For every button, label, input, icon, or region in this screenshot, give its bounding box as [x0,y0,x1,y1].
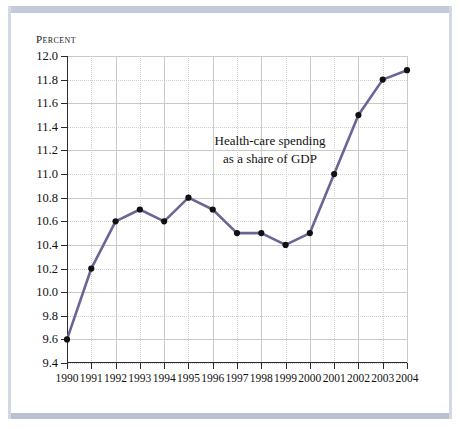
figure-frame-bottom [8,413,452,419]
data-point-marker [185,195,191,201]
y-axis-tick-label: 11.2 [37,143,58,158]
plot-area: 12.011.811.611.411.211.010.810.610.410.2… [67,56,407,363]
gridline-vertical [407,56,408,363]
x-axis-tick [334,363,335,369]
x-axis-tick [407,363,408,369]
y-axis-tick-label: 9.4 [42,356,58,371]
x-axis-tick-label: 1993 [128,372,151,384]
data-point-marker [112,218,118,224]
x-axis-tick-label: 2004 [396,372,419,384]
y-axis-tick-label: 11.0 [37,167,58,182]
data-point-marker [64,336,70,342]
y-axis-tick-label: 11.6 [37,96,58,111]
data-point-marker [307,230,313,236]
data-point-marker [88,265,94,271]
x-axis-tick-label: 1999 [274,372,297,384]
x-axis-tick [67,363,68,369]
y-axis-tick-label: 9.6 [42,332,58,347]
x-axis-tick [213,363,214,369]
y-axis-tick-label: 10.6 [36,214,58,229]
data-point-marker [404,67,410,73]
x-axis-tick [358,363,359,369]
x-axis-tick-label: 1995 [177,372,200,384]
x-axis-tick-label: 2000 [298,372,321,384]
x-axis-tick [188,363,189,369]
x-axis-tick-label: 2003 [371,372,394,384]
x-axis-tick [164,363,165,369]
y-axis-tick-label: 11.8 [37,72,58,87]
x-axis-tick-label: 2001 [323,372,346,384]
x-axis-tick [261,363,262,369]
figure-frame-right [449,6,452,419]
x-axis-tick-label: 1992 [104,372,127,384]
data-point-marker [355,112,361,118]
x-axis-tick-label: 1997 [226,372,249,384]
x-axis-tick-label: 1990 [56,372,79,384]
y-axis-tick-label: 10.0 [36,285,58,300]
figure-frame-left [8,6,11,419]
x-axis-tick [310,363,311,369]
chart-annotation: Health-care spending as a share of GDP [185,132,355,167]
x-axis-tick [383,363,384,369]
data-point-marker [258,230,264,236]
data-point-marker [282,242,288,248]
data-point-marker [331,171,337,177]
y-axis-tick-label: 11.4 [37,119,58,134]
annotation-line-2: as a share of GDP [185,150,355,168]
x-axis-tick [140,363,141,369]
figure-frame-top [8,6,452,13]
x-axis-tick-label: 1996 [201,372,224,384]
data-point-marker [380,77,386,83]
data-point-marker [161,218,167,224]
data-point-marker [210,206,216,212]
y-axis-tick-label: 10.2 [36,261,58,276]
data-point-marker [137,206,143,212]
y-axis-tick-label: 12.0 [36,49,58,64]
x-axis-tick-label: 1991 [80,372,103,384]
data-series-line [67,56,407,363]
x-axis-tick-label: 2002 [347,372,370,384]
x-axis-tick [237,363,238,369]
x-axis-tick-label: 1998 [250,372,273,384]
y-axis-tick-label: 10.4 [36,237,58,252]
x-axis-tick [286,363,287,369]
y-axis-title: Percent [36,33,76,45]
x-axis-tick [91,363,92,369]
annotation-line-1: Health-care spending [185,132,355,150]
y-axis-tick-label: 9.8 [42,308,58,323]
x-axis-tick [116,363,117,369]
chart-figure: Percent 12.011.811.611.411.211.010.810.6… [0,0,460,429]
y-axis-tick-label: 10.8 [36,190,58,205]
x-axis-tick-label: 1994 [153,372,176,384]
data-point-marker [234,230,240,236]
